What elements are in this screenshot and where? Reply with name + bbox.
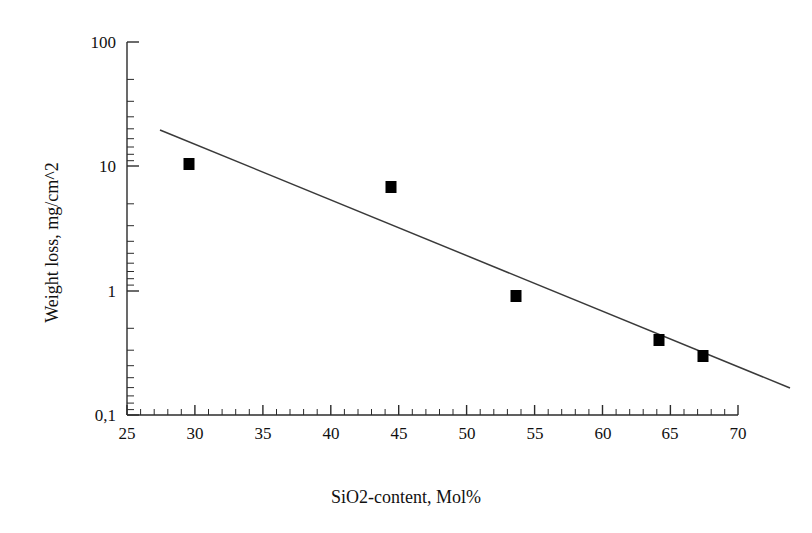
- x-axis-major-ticks: [127, 405, 738, 415]
- y-axis-major-ticks: [127, 42, 139, 415]
- x-tick-label-65: 65: [650, 425, 690, 442]
- x-tick-label-35: 35: [243, 425, 283, 442]
- axes: [127, 42, 738, 415]
- x-tick-label-60: 60: [583, 425, 623, 442]
- x-tick-label-70: 70: [718, 425, 758, 442]
- x-axis-title: SiO2-content, Mol%: [0, 487, 812, 508]
- y-axis-minor-ticks: [127, 79, 134, 409]
- data-point: [386, 181, 397, 193]
- y-tick-label-10: 10: [64, 158, 116, 175]
- x-tick-label-40: 40: [311, 425, 351, 442]
- x-axis-minor-ticks: [141, 409, 725, 415]
- data-point: [184, 158, 195, 170]
- y-tick-label-100: 100: [64, 34, 116, 51]
- x-tick-label-55: 55: [515, 425, 555, 442]
- data-point-markers: [184, 158, 709, 362]
- plot-canvas: [0, 0, 812, 533]
- x-tick-label-50: 50: [447, 425, 487, 442]
- x-tick-label-45: 45: [379, 425, 419, 442]
- trend-line: [160, 130, 790, 388]
- y-tick-label-1: 1: [64, 283, 116, 300]
- y-tick-label-0-1: 0,1: [64, 407, 116, 424]
- y-axis-title: Weight loss, mg/cm^2: [42, 123, 63, 363]
- x-tick-label-25: 25: [107, 425, 147, 442]
- x-tick-label-30: 30: [175, 425, 215, 442]
- data-point: [654, 334, 665, 346]
- data-point: [698, 350, 709, 362]
- data-point: [511, 290, 522, 302]
- chart-figure: 100 10 1 0,1 25 30 35 40 45 50 55 60 65 …: [0, 0, 812, 533]
